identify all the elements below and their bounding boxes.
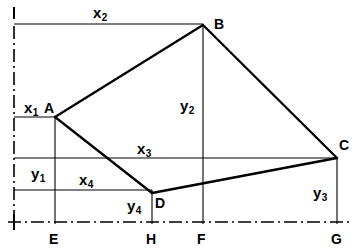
point-label-f: F [197,232,206,246]
diagram-svg [0,0,355,252]
dimension-label-x3: x3 [137,141,151,156]
point-label-d: D [155,196,165,210]
point-label-b: B [214,17,224,31]
point-label-g: G [331,232,342,246]
dimension-label-x4: x4 [79,172,93,187]
point-label-c: C [339,138,349,152]
dimension-label-y3: y3 [313,185,327,200]
segment-cd [152,158,337,193]
dimension-label-x1: x1 [24,100,38,115]
diagram-canvas: x1 x2 x3 x4 y1 y2 y3 y4 A B C D E H F G [0,0,355,252]
dimension-label-x2: x2 [93,5,107,20]
dimension-label-y4: y4 [127,198,141,213]
point-label-a: A [44,101,54,115]
point-label-e: E [49,232,58,246]
quadrilateral-abcd [55,25,337,193]
dimension-label-y2: y2 [180,98,194,113]
segment-bc [203,25,337,158]
dimension-label-y1: y1 [31,166,45,181]
point-label-h: H [146,232,156,246]
